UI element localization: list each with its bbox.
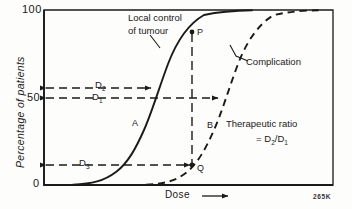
- d3-sub: 3: [86, 163, 90, 170]
- y-tick-50: 50: [27, 91, 40, 103]
- ratio-sub-1: 1: [284, 139, 288, 146]
- annotation-complication: Complication: [246, 56, 301, 67]
- y-tick-0: 0: [33, 177, 40, 189]
- leader-line-tumour: [150, 35, 160, 48]
- d1-base: D: [92, 91, 99, 102]
- x-axis-title: Dose: [165, 189, 190, 200]
- plate-code: 265K: [313, 193, 331, 200]
- y-tick-100: 100: [22, 3, 42, 15]
- point-label-b: B: [207, 120, 213, 130]
- point-label-a: A: [132, 118, 138, 128]
- annotation-ratio-formula: = D2/D1: [226, 133, 318, 146]
- plot-canvas: [0, 0, 352, 209]
- d1-sub: 1: [99, 97, 103, 104]
- curve-complication: [146, 10, 322, 184]
- d3-base: D: [79, 157, 86, 168]
- ratio-prefix: = D: [256, 133, 271, 144]
- point-p-dot: [190, 30, 195, 35]
- y-axis-title: Percentage of patients: [14, 56, 26, 168]
- annotation-tumour-line2: of tumour: [128, 25, 168, 36]
- figure-dose-response: 100 50 0 Percentage of patients Dose Loc…: [0, 0, 352, 209]
- d2-base: D: [95, 79, 102, 90]
- annotation-therapeutic-ratio: Therapeutic ratio: [226, 118, 297, 129]
- label-d3: D3: [79, 157, 90, 170]
- point-q-dot: [190, 163, 195, 168]
- ratio-mid: /D: [275, 133, 285, 144]
- point-label-q: Q: [197, 163, 204, 173]
- point-label-p: P: [197, 27, 203, 37]
- label-d1: D1: [92, 91, 103, 104]
- annotation-tumour-line1: Local control: [128, 12, 182, 23]
- label-d2: D2: [95, 79, 106, 92]
